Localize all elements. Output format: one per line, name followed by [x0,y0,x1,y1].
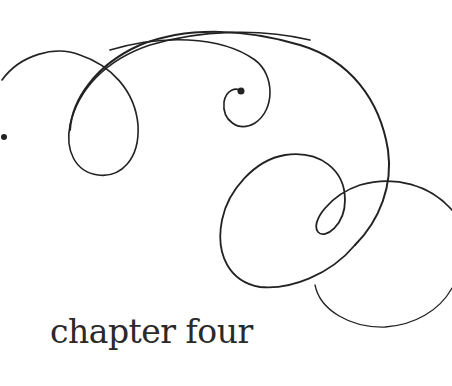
chapter-page: chapter four [0,0,452,386]
chapter-title: chapter four [50,312,253,351]
